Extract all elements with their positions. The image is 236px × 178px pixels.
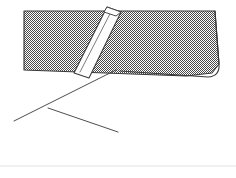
diagram-figure <box>0 0 236 178</box>
hatched-sheet-top-face <box>24 11 219 76</box>
diagram-canvas <box>0 0 236 178</box>
